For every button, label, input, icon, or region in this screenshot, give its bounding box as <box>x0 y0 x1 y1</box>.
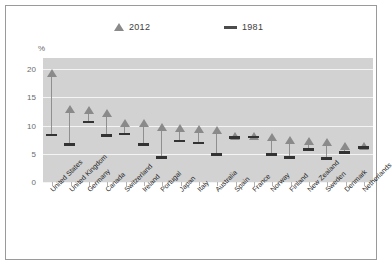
data-column[interactable] <box>355 58 373 182</box>
marker-1981-netherlands[interactable] <box>358 146 369 149</box>
data-column[interactable] <box>245 58 263 182</box>
marker-1981-spain[interactable] <box>229 136 240 139</box>
marker-2012-ireland[interactable] <box>139 119 149 127</box>
marker-1981-norway[interactable] <box>266 153 277 156</box>
marker-2012-portugal[interactable] <box>157 123 167 131</box>
marker-1981-finland[interactable] <box>284 156 295 159</box>
data-column[interactable] <box>43 58 61 182</box>
marker-1981-united-states[interactable] <box>46 134 57 137</box>
y-tick-label: 10 <box>27 121 36 130</box>
marker-1981-japan[interactable] <box>174 140 185 143</box>
data-column[interactable] <box>226 58 244 182</box>
marker-1981-switzerland[interactable] <box>119 133 130 136</box>
connector-line <box>69 109 70 144</box>
marker-2012-canada[interactable] <box>102 109 112 117</box>
marker-1981-new-zealand[interactable] <box>303 148 314 151</box>
data-column[interactable] <box>300 58 318 182</box>
x-axis-labels: United StatesUnited KingdomGermanyCanada… <box>6 186 378 256</box>
y-axis: 05101520 <box>6 58 43 182</box>
chart-legend: 2012 1981 <box>6 22 378 38</box>
marker-1981-germany[interactable] <box>83 121 94 124</box>
marker-1981-france[interactable] <box>248 136 259 139</box>
y-tick-label: 5 <box>32 149 36 158</box>
y-tick-label: 20 <box>27 65 36 74</box>
marker-2012-australia[interactable] <box>212 126 222 134</box>
marker-2012-switzerland[interactable] <box>120 119 130 127</box>
connector-line <box>161 127 162 157</box>
y-axis-unit-label: % <box>38 44 45 53</box>
marker-1981-united-kingdom[interactable] <box>64 143 75 146</box>
marker-2012-new-zealand[interactable] <box>304 137 314 145</box>
connector-line <box>51 73 52 135</box>
marker-2012-united-kingdom[interactable] <box>65 105 75 113</box>
marker-2012-italy[interactable] <box>194 125 204 133</box>
marker-2012-denmark[interactable] <box>340 142 350 150</box>
chart-frame: 2012 1981 % 05101520 United StatesUnited… <box>5 5 377 260</box>
legend-label-2012: 2012 <box>129 22 150 32</box>
marker-1981-sweden[interactable] <box>321 157 332 160</box>
marker-1981-australia[interactable] <box>211 153 222 156</box>
legend-item-2012[interactable]: 2012 <box>114 22 150 32</box>
legend-label-1981: 1981 <box>242 22 263 32</box>
data-column[interactable] <box>171 58 189 182</box>
marker-1981-italy[interactable] <box>193 142 204 145</box>
y-tick-label: 15 <box>27 93 36 102</box>
triangle-marker-icon <box>114 23 124 31</box>
marker-1981-denmark[interactable] <box>339 151 350 154</box>
marker-1981-portugal[interactable] <box>156 156 167 159</box>
marker-1981-ireland[interactable] <box>138 143 149 146</box>
legend-item-1981[interactable]: 1981 <box>224 22 263 32</box>
data-column[interactable] <box>208 58 226 182</box>
marker-2012-united-states[interactable] <box>47 69 57 77</box>
data-column[interactable] <box>116 58 134 182</box>
dash-marker-icon <box>224 26 237 29</box>
data-column[interactable] <box>263 58 281 182</box>
data-column[interactable] <box>281 58 299 182</box>
marker-1981-canada[interactable] <box>101 134 112 137</box>
marker-2012-sweden[interactable] <box>322 138 332 146</box>
marker-2012-norway[interactable] <box>267 133 277 141</box>
data-column[interactable] <box>153 58 171 182</box>
marker-2012-finland[interactable] <box>285 136 295 144</box>
data-column[interactable] <box>190 58 208 182</box>
marker-2012-japan[interactable] <box>175 124 185 132</box>
marker-2012-germany[interactable] <box>84 106 94 114</box>
